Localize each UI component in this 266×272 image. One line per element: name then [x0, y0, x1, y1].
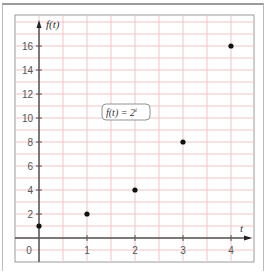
svg-text:10: 10	[22, 113, 34, 124]
svg-text:16: 16	[22, 41, 34, 52]
formula-annotation: f(t) = 2t	[102, 104, 150, 120]
data-point	[180, 139, 185, 144]
svg-text:3: 3	[180, 245, 186, 256]
svg-text:4: 4	[228, 245, 234, 256]
y-axis-label: f(t)	[46, 18, 60, 31]
data-point	[228, 43, 233, 48]
data-point	[84, 211, 89, 216]
svg-text:14: 14	[22, 65, 34, 76]
svg-text:f(t) = 2t: f(t) = 2t	[106, 106, 138, 119]
svg-text:8: 8	[27, 137, 33, 148]
svg-text:6: 6	[27, 161, 33, 172]
chart-plot: 24681012141601234 f(t) t f(t) = 2t	[0, 0, 266, 272]
data-point	[132, 187, 137, 192]
svg-text:12: 12	[22, 89, 34, 100]
svg-text:1: 1	[84, 245, 90, 256]
svg-text:0: 0	[26, 245, 32, 256]
svg-text:4: 4	[27, 185, 33, 196]
data-point	[36, 223, 41, 228]
svg-text:2: 2	[132, 245, 138, 256]
formula-base: f(t) = 2	[106, 107, 135, 119]
svg-text:2: 2	[27, 209, 33, 220]
